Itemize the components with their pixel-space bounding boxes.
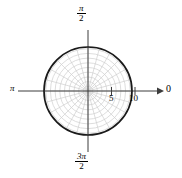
angle-label-pi-over-2: π 2	[77, 4, 86, 24]
radial-tick-label-5: 5	[109, 94, 114, 103]
polar-axes	[18, 30, 164, 152]
angle-label-zero: 0	[166, 84, 171, 94]
grid-spoke	[88, 50, 99, 91]
axis-arrowhead-icon	[157, 88, 164, 95]
polar-plot-canvas	[0, 0, 182, 178]
grid-spoke	[47, 91, 88, 102]
grid-spoke	[77, 50, 88, 91]
grid-spoke	[47, 80, 88, 91]
grid-spoke	[88, 80, 129, 91]
grid-spoke	[77, 91, 88, 132]
polar-plot-figure: π 2 3π 2 π 0 5 10	[0, 0, 182, 178]
radial-tick-label-10: 10	[129, 94, 138, 103]
grid-spoke	[88, 91, 99, 132]
angle-label-three-pi-over-2: 3π 2	[75, 152, 88, 172]
angle-label-three-pi-over-2-denominator: 2	[75, 162, 88, 171]
angle-label-pi-over-2-denominator: 2	[77, 14, 86, 23]
angle-label-pi: π	[10, 84, 15, 93]
